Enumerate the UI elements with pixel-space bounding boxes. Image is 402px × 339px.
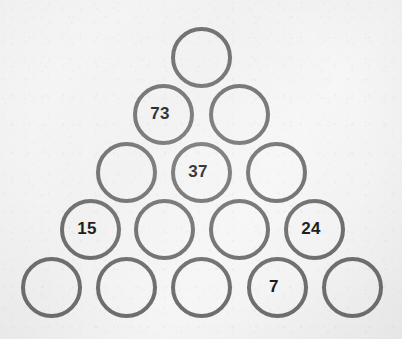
pyramid-cell-value-r4c1: 15: [64, 203, 117, 256]
pyramid-cell-value-r4c4: 24: [288, 203, 341, 256]
pyramid-cell-value-glyph: 73: [150, 104, 170, 124]
pyramid-cell-value-r4c3: [213, 203, 266, 256]
pyramid-cell-r3c3[interactable]: [246, 142, 307, 203]
pyramid-cell-value-r3c2: 37: [175, 146, 228, 199]
pyramid-cell-r3c2[interactable]: 37: [171, 142, 232, 203]
pyramid-cell-r5c1[interactable]: [21, 257, 82, 318]
pyramid-cell-value-glyph: 24: [301, 219, 321, 239]
pyramid-cell-r5c3[interactable]: [171, 257, 232, 318]
pyramid-cell-r2c2[interactable]: [209, 84, 270, 145]
pyramid-cell-value-r5c3: [175, 261, 228, 314]
pyramid-cell-value-r5c5: [326, 261, 379, 314]
pyramid-cell-r1c1[interactable]: [171, 27, 232, 88]
pyramid-cell-r5c4[interactable]: 7: [247, 257, 308, 318]
pyramid-cell-r4c2[interactable]: [134, 199, 195, 260]
pyramid-cell-value-r5c2: [100, 261, 153, 314]
pyramid-cell-value-glyph: 15: [77, 219, 97, 239]
pyramid-cell-r2c1[interactable]: 73: [133, 84, 194, 145]
pyramid-cell-value-r2c2: [213, 88, 266, 141]
pyramid-cell-r4c4[interactable]: 24: [284, 199, 345, 260]
pyramid-cell-r4c1[interactable]: 15: [60, 199, 121, 260]
pyramid-cell-r5c5[interactable]: [322, 257, 383, 318]
pyramid-cell-value-r3c1: [100, 146, 153, 199]
pyramid-cell-value-glyph: 37: [188, 162, 208, 182]
pyramid-circle-layer: 733715247: [0, 0, 402, 339]
pyramid-cell-value-r1c1: [175, 31, 228, 84]
pyramid-cell-value-r2c1: 73: [137, 88, 190, 141]
pyramid-cell-r5c2[interactable]: [96, 257, 157, 318]
pyramid-cell-value-r5c4: 7: [251, 261, 304, 314]
pyramid-cell-r3c1[interactable]: [96, 142, 157, 203]
pyramid-cell-value-r4c2: [138, 203, 191, 256]
pyramid-cell-value-r3c3: [250, 146, 303, 199]
pyramid-cell-r4c3[interactable]: [209, 199, 270, 260]
pyramid-cell-value-r5c1: [25, 261, 78, 314]
number-pyramid-puzzle: 733715247: [0, 0, 402, 339]
pyramid-cell-value-glyph: 7: [269, 277, 279, 297]
